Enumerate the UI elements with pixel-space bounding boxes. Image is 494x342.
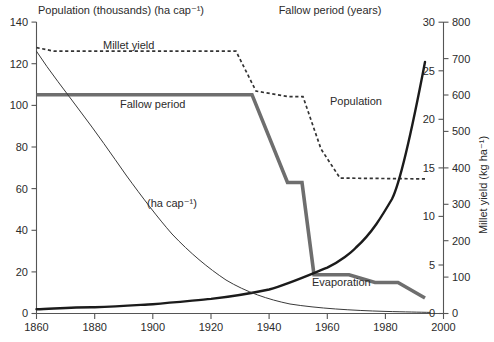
x-tick-1900: 1900 <box>141 321 165 333</box>
y-left-tick-40: 40 <box>16 224 28 236</box>
y-fallow-tick-15: 15 <box>423 162 435 174</box>
y-millet-tick-0: 0 <box>452 307 458 319</box>
y-millet-tick-700: 700 <box>452 53 470 65</box>
x-tick-2000: 2000 <box>431 321 455 333</box>
y-millet-tick-100: 100 <box>452 271 470 283</box>
y-left-tick-80: 80 <box>16 141 28 153</box>
x-tick-1940: 1940 <box>257 321 281 333</box>
series-fallow-period <box>37 95 426 298</box>
y-fallow-tick-20: 20 <box>423 113 435 125</box>
y-millet-tick-500: 500 <box>452 125 470 137</box>
x-ticks: 1860 1880 1900 1920 1940 1960 1980 2000 <box>24 314 455 334</box>
y-fallow-tick-5: 5 <box>429 259 435 271</box>
x-tick-1860: 1860 <box>24 321 48 333</box>
label-ha-cap: (ha cap⁻¹) <box>147 197 197 209</box>
x-tick-1880: 1880 <box>82 321 106 333</box>
y-fallow-tick-0: 0 <box>429 307 435 319</box>
chart-svg: Population (thousands) (ha cap⁻¹) Fallow… <box>0 0 494 342</box>
y-left-ticks: 0 20 40 60 80 100 120 140 <box>10 16 37 319</box>
y-fallow-tick-10: 10 <box>423 210 435 222</box>
label-millet-yield: Millet yield <box>103 39 154 51</box>
label-population: Population <box>330 95 382 107</box>
x-tick-1980: 1980 <box>373 321 397 333</box>
y-left-tick-20: 20 <box>16 266 28 278</box>
label-evaporation: Evaporation <box>312 276 371 288</box>
fallow-axis-title: Fallow period (years) <box>279 4 382 16</box>
y-left-tick-140: 140 <box>10 16 28 28</box>
y-millet-tick-600: 600 <box>452 89 470 101</box>
millet-axis-title: Millet yield (kg ha⁻¹) <box>477 136 489 234</box>
y-millet-tick-400: 400 <box>452 162 470 174</box>
y-left-tick-100: 100 <box>10 99 28 111</box>
left-axis-title: Population (thousands) (ha cap⁻¹) <box>38 4 204 16</box>
y-left-tick-120: 120 <box>10 58 28 70</box>
y-millet-ticks: 0 100 200 300 400 500 600 700 800 <box>444 16 471 319</box>
x-tick-1920: 1920 <box>199 321 223 333</box>
y-millet-tick-200: 200 <box>452 235 470 247</box>
y-left-tick-60: 60 <box>16 183 28 195</box>
label-fallow-period: Fallow period <box>120 98 185 110</box>
figure-chart: Population (thousands) (ha cap⁻¹) Fallow… <box>0 0 494 342</box>
x-tick-1960: 1960 <box>315 321 339 333</box>
series-ha-cap <box>37 51 431 312</box>
series-millet-yield <box>37 48 426 179</box>
y-fallow-tick-30: 30 <box>423 16 435 28</box>
y-millet-tick-300: 300 <box>452 198 470 210</box>
y-millet-tick-800: 800 <box>452 16 470 28</box>
y-left-tick-0: 0 <box>22 307 28 319</box>
